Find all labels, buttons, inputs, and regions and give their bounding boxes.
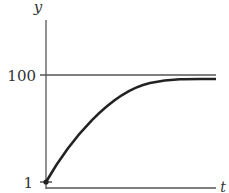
tick-label-1: 1 (23, 174, 33, 192)
x-axis-label: t (220, 179, 226, 193)
growth-chart: y 100 1 t (0, 0, 229, 193)
tick-label-100: 100 (7, 67, 36, 85)
y-axis-label: y (33, 0, 43, 16)
growth-curve (46, 79, 216, 182)
initial-point (43, 179, 48, 184)
